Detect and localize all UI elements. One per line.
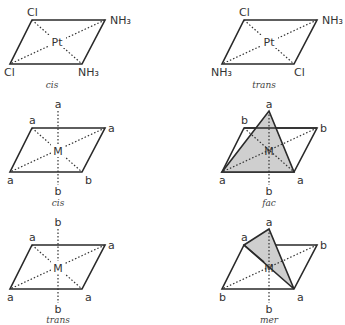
panel-oct-cis: M a a a a b b cis [7,98,115,208]
metal-center: M [53,262,63,275]
ligand-top-left: Cl [239,6,250,19]
caption: fac [261,198,276,208]
panel-pt-cis: Pt Cl NH₃ Cl NH₃ cis [4,6,131,90]
ligand-bottom-right: a [297,174,304,187]
ligand-top-right: NH₃ [110,14,131,27]
ligand-top-right: a [108,239,115,252]
ligand-top: a [266,98,273,111]
caption: trans [252,80,276,90]
shaded-face [244,229,294,289]
caption: cis [46,80,59,90]
metal-center: Pt [264,36,276,49]
panel-pt-trans: Pt Cl NH₃ NH₃ Cl trans [211,6,343,90]
panel-oct-fac: M a b b a a b fac [219,98,327,208]
ligand-bottom-right: a [85,291,92,304]
ligand-top-left: a [241,231,248,244]
caption: cis [52,198,65,208]
ligand-bottom-left: Cl [4,66,15,79]
metal-center: M [264,262,274,275]
panel-oct-mer: M a a b b a b mer [219,216,327,325]
ligand-bottom-left: a [7,291,14,304]
ligand-bottom: b [266,185,273,198]
ligand-bottom-right: a [297,291,304,304]
ligand-top-right: b [320,239,327,252]
ligand-bottom-left: b [219,291,226,304]
ligand-bottom-right: NH₃ [78,66,99,79]
ligand-top-right: a [108,122,115,135]
ligand-top: a [266,216,273,229]
ligand-bottom-left: a [7,174,14,187]
ligand-top-left: a [29,231,36,244]
metal-center: M [264,145,274,158]
metal-center: M [53,145,63,158]
ligand-top-right: b [320,122,327,135]
metal-center: Pt [52,36,64,49]
ligand-top: a [55,98,62,111]
isomer-diagram: Pt Cl NH₃ Cl NH₃ cis Pt Cl NH₃ NH₃ Cl tr… [0,0,345,325]
ligand-top-left: Cl [27,6,38,19]
caption: mer [260,315,279,325]
panel-oct-trans: M b a a a a b trans [7,216,115,325]
caption: trans [46,315,70,325]
ligand-top-left: b [241,114,248,127]
ligand-bottom: b [55,185,62,198]
ligand-bottom-right: b [85,174,92,187]
ligand-bottom-left: a [219,174,226,187]
shaded-face [222,111,294,172]
ligand-top-right: NH₃ [322,14,343,27]
ligand-top: b [55,216,62,229]
ligand-top-left: a [29,114,36,127]
ligand-bottom-left: NH₃ [211,66,232,79]
ligand-bottom-right: Cl [294,66,305,79]
